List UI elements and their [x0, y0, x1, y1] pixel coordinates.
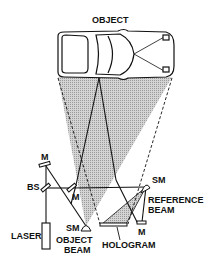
- mirror-top-icon: [39, 161, 50, 167]
- hologram-label: HOLOGRAM: [102, 241, 156, 250]
- sm-reference-label: SM: [152, 176, 166, 185]
- mirror-ref-icon: [137, 221, 146, 224]
- hologram-diagram: OBJECT M BS M LASER SM OBJECT BEAM SM RE…: [0, 0, 214, 272]
- object-beam-label-1: OBJECT: [56, 236, 93, 245]
- mirror-top-label: M: [41, 153, 49, 162]
- object-label: OBJECT: [92, 16, 129, 25]
- object-beam-label-2: BEAM: [64, 246, 91, 255]
- laser-icon: [42, 223, 50, 249]
- sm-object-label: SM: [66, 224, 80, 233]
- reference-beam-label-1: REFERENCE: [148, 196, 204, 205]
- car-object-icon: [58, 30, 174, 80]
- reference-cone: [102, 187, 146, 224]
- sm-object-icon: [81, 226, 91, 232]
- reference-beam-label-2: BEAM: [148, 206, 175, 215]
- hologram-plate-icon: [100, 223, 127, 226]
- mirror-mid-label: M: [72, 193, 80, 202]
- laser-label: LASER: [11, 232, 42, 241]
- beam-splitter-label: BS: [27, 183, 40, 192]
- mirror-ref-label: M: [138, 228, 146, 237]
- hologram-leader-line: [117, 227, 120, 240]
